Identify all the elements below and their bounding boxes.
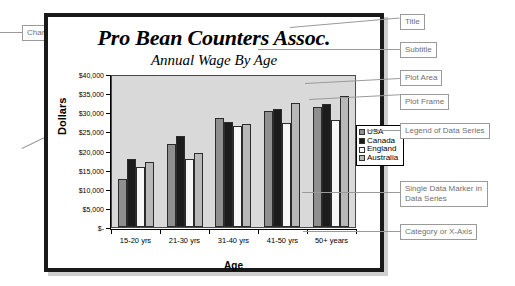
x-axis-tick-label: 41-50 yrs: [258, 236, 307, 245]
bar-canada[interactable]: [176, 136, 185, 227]
chart-area: Pro Bean Counters Assoc. Annual Wage By …: [44, 13, 384, 272]
bar-england[interactable]: [233, 126, 242, 227]
callout-x-axis-cat: Category or X-Axis: [400, 224, 477, 240]
bar-canada[interactable]: [127, 159, 136, 227]
x-axis-tick-label: 15-20 yrs: [111, 236, 160, 245]
x-axis-tick-labels: 15-20 yrs21-30 yrs31-40 yrs41-50 yrs50+ …: [111, 236, 356, 245]
x-axis-tick: [258, 229, 259, 234]
bar-australia[interactable]: [145, 162, 154, 227]
legend-swatch-icon: [359, 155, 365, 161]
bar-australia[interactable]: [242, 124, 251, 227]
leader-legend: [367, 130, 400, 131]
x-axis-tick: [160, 229, 161, 234]
bar-usa[interactable]: [167, 144, 176, 227]
y-axis-tick: [106, 209, 111, 210]
bar-canada[interactable]: [322, 104, 331, 227]
bar-usa[interactable]: [313, 107, 322, 227]
y-axis-tick-label: $20,000: [79, 148, 104, 155]
callout-legend: Legend of Data Series: [400, 123, 490, 139]
y-axis-tick-label: $15,000: [79, 167, 104, 174]
legend-swatch-icon: [359, 138, 365, 144]
callout-title: Title: [400, 14, 425, 30]
bar-england[interactable]: [282, 123, 291, 227]
legend-item[interactable]: Australia: [359, 154, 398, 163]
bar-australia[interactable]: [291, 103, 300, 227]
bar-usa[interactable]: [264, 111, 273, 227]
x-axis-tick-label: 50+ years: [307, 236, 356, 245]
bar-usa[interactable]: [118, 179, 127, 227]
callout-subtitle: Subtitle: [400, 42, 437, 58]
bar-england[interactable]: [331, 120, 340, 227]
y-axis-tick-label: $10,000: [79, 186, 104, 193]
x-axis-tick: [209, 229, 210, 234]
x-axis-tick-label: 21-30 yrs: [160, 236, 209, 245]
legend-label: Australia: [367, 154, 398, 163]
y-axis-tick-label: $30,000: [79, 110, 104, 117]
bar-australia[interactable]: [194, 153, 203, 227]
y-axis-tick-label: $5,000: [83, 205, 104, 212]
bar-canada[interactable]: [224, 122, 233, 227]
bar-group: [112, 76, 161, 227]
y-axis-tick-labels: $40,000$35,000$30,000$25,000$20,000$15,0…: [48, 17, 104, 268]
legend-swatch-icon: [359, 147, 365, 153]
x-axis-tick: [111, 229, 112, 234]
bar-usa[interactable]: [215, 118, 224, 227]
y-axis-tick: [106, 171, 111, 172]
bar-england[interactable]: [136, 167, 145, 227]
y-axis-tick-label: $35,000: [79, 91, 104, 98]
callout-data-marker: Single Data Marker in Data Series: [400, 181, 488, 207]
x-axis-line: [110, 229, 357, 230]
bar-group: [161, 76, 210, 227]
legend-swatch-icon: [359, 129, 365, 135]
leader-data-marker: [302, 192, 400, 193]
y-axis-tick: [106, 75, 111, 76]
y-axis-tick: [106, 113, 111, 114]
leader-x-axis-cat: [303, 231, 400, 232]
y-axis-tick: [106, 152, 111, 153]
y-axis-tick-label: $-: [98, 225, 104, 232]
bar-australia[interactable]: [340, 96, 349, 227]
bar-group: [209, 76, 258, 227]
bar-group: [258, 76, 307, 227]
legend: USACanadaEnglandAustralia: [356, 125, 404, 166]
y-axis-tick-label: $40,000: [79, 72, 104, 79]
x-axis-tick-label: 31-40 yrs: [209, 236, 258, 245]
x-axis-title: Age: [111, 260, 356, 271]
y-axis-tick: [106, 190, 111, 191]
y-axis-tick: [106, 94, 111, 95]
bar-england[interactable]: [185, 159, 194, 227]
leader-subtitle: [258, 49, 400, 50]
y-axis-tick: [106, 132, 111, 133]
y-axis-tick-label: $25,000: [79, 129, 104, 136]
bar-canada[interactable]: [273, 109, 282, 227]
callout-plot-frame: Plot Frame: [400, 94, 449, 110]
callout-plot-area: Plot Area: [400, 70, 442, 86]
leader-chart-area-left: [0, 32, 22, 33]
